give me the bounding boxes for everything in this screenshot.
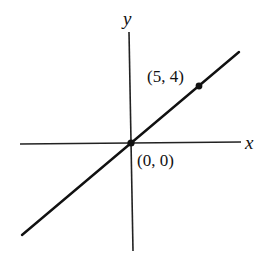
point-5-4: [196, 83, 203, 90]
coordinate-graph: y x (5, 4) (0, 0): [0, 0, 269, 257]
x-axis-label: x: [244, 132, 254, 153]
y-axis-label: y: [121, 8, 132, 29]
origin-point: [127, 139, 134, 146]
point-label-origin: (0, 0): [137, 151, 174, 170]
point-label-5-4: (5, 4): [147, 67, 184, 86]
